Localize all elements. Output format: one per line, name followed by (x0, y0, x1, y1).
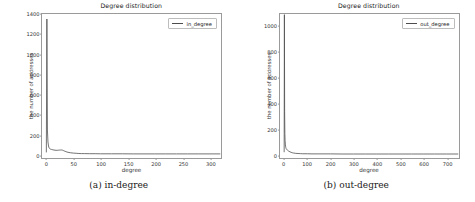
y-tick-mark-out-degree (278, 156, 280, 157)
x-tick-mark-in-degree (183, 158, 184, 160)
y-tick-mark-out-degree (278, 130, 280, 131)
x-tick-label-out-degree: 600 (419, 161, 429, 167)
x-tick-label-in-degree: 50 (71, 161, 77, 167)
y-tick-mark-out-degree (278, 25, 280, 26)
x-tick-mark-out-degree (447, 158, 448, 160)
x-tick-label-out-degree: 400 (373, 161, 383, 167)
x-tick-label-out-degree: 0 (282, 161, 285, 167)
legend-label-out-degree: out_degree (420, 21, 449, 27)
x-tick-label-in-degree: 300 (206, 161, 216, 167)
x-tick-mark-out-degree (377, 158, 378, 160)
x-tick-mark-in-degree (128, 158, 129, 160)
y-tick-mark-in-degree (40, 54, 42, 55)
line-series-out-degree (280, 14, 459, 158)
line-series-in-degree (42, 14, 221, 158)
y-axis-label-in-degree: the number of addresses (28, 31, 34, 141)
y-tick-label-in-degree: 800 (30, 72, 40, 78)
y-tick-label-in-degree: 1400 (27, 11, 40, 17)
y-axis-label-host-out-degree: the number of addresses (250, 13, 264, 159)
y-tick-label-out-degree: 600 (267, 75, 277, 81)
x-tick-label-in-degree: 0 (45, 161, 48, 167)
x-tick-label-in-degree: 200 (151, 161, 161, 167)
x-tick-label-out-degree: 200 (326, 161, 336, 167)
y-tick-mark-in-degree (40, 135, 42, 136)
x-tick-label-in-degree: 250 (179, 161, 189, 167)
caption-out-degree: (b) out-degree (238, 180, 475, 190)
y-tick-mark-out-degree (278, 104, 280, 105)
y-tick-label-out-degree: 800 (267, 49, 277, 55)
x-tick-label-in-degree: 100 (96, 161, 106, 167)
y-axis-label-out-degree: the number of addresses (266, 31, 272, 141)
x-tick-mark-out-degree (283, 158, 284, 160)
legend-out-degree: out_degree (402, 18, 454, 29)
plot-area-in-degree: Degree distribution the number of addres… (0, 0, 238, 175)
legend-in-degree: in_degree (168, 18, 217, 29)
x-axis-label-out-degree: degree (279, 167, 460, 173)
chart-title-in-degree: Degree distribution (41, 2, 222, 9)
chart-title-out-degree: Degree distribution (279, 2, 460, 9)
x-tick-label-in-degree: 150 (124, 161, 134, 167)
y-tick-label-in-degree: 1000 (27, 52, 40, 58)
y-tick-label-out-degree: 0 (274, 153, 277, 159)
caption-in-degree: (a) in-degree (0, 180, 238, 190)
y-tick-label-in-degree: 1200 (27, 31, 40, 37)
x-tick-mark-in-degree (101, 158, 102, 160)
y-tick-label-out-degree: 400 (267, 101, 277, 107)
x-tick-mark-out-degree (424, 158, 425, 160)
y-tick-label-out-degree: 200 (267, 127, 277, 133)
y-tick-mark-in-degree (40, 95, 42, 96)
plot-frame-in-degree: in_degree 020040060080010001200140005010… (41, 13, 222, 159)
x-tick-label-out-degree: 700 (443, 161, 453, 167)
x-tick-mark-out-degree (330, 158, 331, 160)
subfigure-in-degree: Degree distribution the number of addres… (0, 0, 238, 202)
legend-swatch-in-degree (172, 23, 183, 24)
plot-frame-out-degree: out_degree 02004006008001000010020030040… (279, 13, 460, 159)
subfigure-out-degree: Degree distribution the number of addres… (238, 0, 475, 202)
x-tick-label-out-degree: 500 (396, 161, 406, 167)
legend-label-in-degree: in_degree (186, 21, 212, 27)
x-tick-mark-out-degree (354, 158, 355, 160)
y-tick-mark-out-degree (278, 77, 280, 78)
x-tick-label-out-degree: 100 (302, 161, 312, 167)
x-tick-mark-out-degree (307, 158, 308, 160)
y-tick-mark-in-degree (40, 74, 42, 75)
x-tick-mark-in-degree (211, 158, 212, 160)
legend-swatch-out-degree (406, 23, 417, 24)
y-tick-mark-in-degree (40, 156, 42, 157)
x-tick-label-out-degree: 300 (349, 161, 359, 167)
y-tick-mark-out-degree (278, 51, 280, 52)
y-tick-label-in-degree: 600 (30, 92, 40, 98)
x-tick-mark-in-degree (156, 158, 157, 160)
y-tick-label-in-degree: 0 (36, 153, 39, 159)
x-tick-mark-in-degree (46, 158, 47, 160)
y-tick-mark-in-degree (40, 34, 42, 35)
y-tick-label-in-degree: 200 (30, 133, 40, 139)
y-axis-label-host-in-degree: the number of addresses (12, 13, 26, 159)
figure-row: Degree distribution the number of addres… (0, 0, 475, 202)
y-tick-mark-in-degree (40, 115, 42, 116)
x-tick-mark-out-degree (400, 158, 401, 160)
y-tick-label-in-degree: 400 (30, 112, 40, 118)
plot-area-out-degree: Degree distribution the number of addres… (238, 0, 475, 175)
x-axis-label-in-degree: degree (41, 167, 222, 173)
x-tick-mark-in-degree (73, 158, 74, 160)
y-tick-label-out-degree: 1000 (264, 23, 277, 29)
y-tick-mark-in-degree (40, 14, 42, 15)
